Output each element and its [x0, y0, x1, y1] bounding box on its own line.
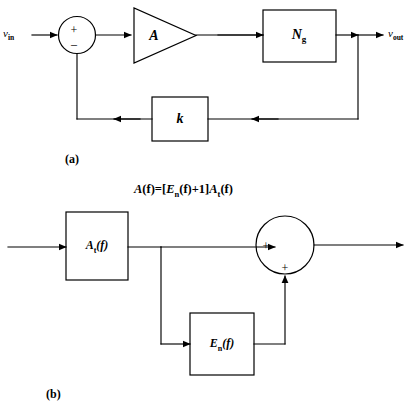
sum-plus-sign-b-left: + [263, 240, 270, 252]
error-block-label: En(f) [210, 337, 234, 352]
output-signal-label: vout [388, 28, 403, 42]
noise-block-label: Ng [292, 28, 307, 45]
equation-label: A(f)=[En(f)+1]At(f) [134, 183, 233, 198]
amplifier-label: A [149, 29, 158, 43]
figure-root: vin + – A Ng k vout (a) A(f)=[En(f)+1]At… [0, 0, 411, 410]
feedback-block-label: k [177, 112, 184, 126]
sum-plus-sign-a: + [71, 24, 78, 36]
sum-minus-sign-a: – [71, 38, 77, 50]
input-signal-label: vin [3, 28, 14, 42]
amplifier-triangle [134, 8, 196, 63]
panel-b-caption: (b) [46, 388, 61, 400]
diagram-line-work [0, 0, 411, 410]
forward-block-label: At(f) [86, 239, 109, 254]
panel-a-caption: (a) [65, 153, 79, 165]
sum-plus-sign-b-bottom: + [282, 262, 289, 274]
